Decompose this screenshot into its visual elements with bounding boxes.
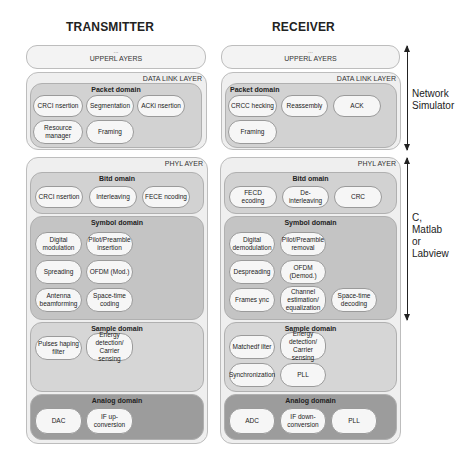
tx-block-ofdm-mod: OFDM (Mod.) (86, 260, 133, 284)
tx-block-ack-insertion: ACKi nsertion (137, 95, 185, 117)
rx-block-ofdm-demod: OFDM (Demod.) (280, 260, 326, 284)
rx-upper-layers-label: UPPERL AYERS (222, 54, 399, 63)
rx-block-channel-estimation: Channel estimation/ equalization (280, 286, 326, 314)
rx-upper-layers: ... UPPERL AYERS (221, 45, 400, 69)
tx-analog-domain: Analog domain DAC IF up-conversion (30, 394, 204, 440)
network-simulator-line-1: Network (412, 88, 454, 100)
rx-block-space-time-decoding: Space-time decoding (331, 288, 377, 312)
tx-block-digital-modulation: Digital modulation (35, 232, 82, 256)
tx-block-interleaving: Interleaving (89, 186, 137, 208)
network-simulator-range-arrow (407, 46, 408, 150)
rx-block-adc: ADC (229, 408, 275, 434)
tx-phy-layer: PHYL AYER Bitd omain CRCI nsertion Inter… (26, 157, 208, 444)
rx-block-pll-analog: PLL (331, 408, 377, 434)
arrow-up-icon (404, 45, 410, 52)
rx-analog-domain-title: Analog domain (225, 397, 396, 404)
rx-block-ack: ACK (333, 95, 381, 117)
rx-block-pll-sample: PLL (280, 363, 326, 387)
rx-packet-domain: Packet domain CRCC hecking Reassembly AC… (225, 83, 397, 148)
rx-phy-layer: PHYL AYER Bitd omain FECD ecoding De-int… (220, 157, 401, 444)
rx-block-framing: Framing (228, 120, 277, 144)
rx-bit-domain-title: Bitd omain (225, 175, 396, 182)
tx-packet-domain: Packet domain CRCI nsertion Segmentation… (30, 83, 202, 148)
tx-block-space-time-coding: Space-time coding (86, 288, 133, 312)
tx-data-link-layer: DATA LINK LAYER Packet domain CRCI nsert… (26, 72, 207, 150)
arrow-up-icon (404, 157, 410, 164)
tx-block-antenna-beamforming: Antenna beamforming (35, 288, 82, 312)
rx-block-energy-detection: Energy detection/ Carrier sensing (280, 332, 326, 360)
tx-block-spreading: Spreading (35, 260, 82, 284)
tx-packet-domain-title: Packet domain (31, 86, 201, 93)
tx-block-crc-insertion: CRCI nsertion (33, 95, 83, 117)
c-matlab-labview-line-2: Matlab (412, 224, 449, 236)
tx-block-pilot-insertion: Pilot/Preamble insertion (86, 232, 133, 256)
tx-block-if-upconversion: IF up-conversion (86, 408, 133, 434)
rx-symbol-domain: Symbol domain Digital demodulation Pilot… (224, 216, 397, 320)
arrow-down-icon (404, 144, 410, 151)
tx-analog-domain-title: Analog domain (31, 397, 203, 404)
rx-block-deinterleaving: De-interleaving (282, 186, 329, 208)
tx-bit-domain-title: Bitd omain (31, 175, 203, 182)
tx-block-pulse-shaping-filter: Pulses haping filter (35, 336, 82, 360)
rx-packet-domain-title: Packet domain (230, 86, 396, 93)
transmitter-title: TRANSMITTER (66, 20, 154, 34)
arrow-down-icon (404, 314, 410, 321)
rx-phy-layer-label: PHYL AYER (358, 160, 396, 167)
c-matlab-labview-line-4: Labview (412, 248, 449, 260)
tx-symbol-domain: Symbol domain Digital modulation Pilot/P… (30, 216, 204, 320)
tx-block-dac: DAC (35, 408, 82, 434)
c-matlab-labview-label: C, Matlab or Labview (412, 212, 449, 260)
rx-data-link-layer-label: DATA LINK LAYER (337, 75, 396, 82)
rx-block-synchronization: Synchronization (229, 363, 275, 387)
tx-block-resource-manager: Resource manager (33, 120, 83, 144)
rx-block-fec-decoding: FECD ecoding (229, 186, 277, 208)
tx-phy-layer-label: PHYL AYER (165, 160, 203, 167)
c-matlab-labview-range-arrow (407, 158, 408, 320)
network-simulator-label: Network Simulator (412, 88, 454, 112)
rx-block-if-downconversion: IF down-conversion (280, 408, 326, 434)
rx-block-digital-demodulation: Digital demodulation (229, 232, 275, 256)
rx-block-pilot-removal: Pilot/Preamble removal (280, 232, 326, 256)
rx-symbol-domain-title: Symbol domain (225, 219, 396, 226)
tx-upper-layers: ... UPPERL AYERS (26, 45, 206, 69)
tx-data-link-layer-label: DATA LINK LAYER (143, 75, 202, 82)
receiver-title: RECEIVER (272, 20, 335, 34)
rx-block-crc-checking: CRCC hecking (228, 95, 277, 117)
tx-block-energy-detection: Energy detection/ Carrier sensing (86, 333, 133, 361)
rx-block-frame-sync: Frames ync (229, 288, 275, 312)
tx-upper-layers-label: UPPERL AYERS (27, 54, 205, 63)
tx-block-crc-insertion-phy: CRCI nsertion (35, 186, 83, 208)
rx-block-despreading: Despreading (229, 260, 275, 284)
tx-symbol-domain-title: Symbol domain (31, 219, 203, 226)
rx-data-link-layer: DATA LINK LAYER Packet domain CRCC hecki… (221, 72, 401, 150)
rx-block-reassembly: Reassembly (281, 95, 328, 117)
tx-block-fec-encoding: FECE ncoding (142, 186, 190, 208)
c-matlab-labview-line-3: or (412, 236, 449, 248)
rx-block-matched-filter: Matchedf ilter (229, 335, 275, 359)
rx-sample-domain: Sample domain Matchedf ilter Energy dete… (224, 322, 397, 392)
c-matlab-labview-line-1: C, (412, 212, 449, 224)
tx-bit-domain: Bitd omain CRCI nsertion Interleaving FE… (30, 172, 204, 214)
tx-block-segmentation: Segmentation (86, 95, 134, 117)
rx-bit-domain: Bitd omain FECD ecoding De-interleaving … (224, 172, 397, 214)
rx-analog-domain: Analog domain ADC IF down-conversion PLL (224, 394, 397, 440)
tx-sample-domain: Sample domain Pulses haping filter Energ… (30, 322, 204, 392)
rx-block-crc: CRC (334, 186, 382, 208)
network-simulator-line-2: Simulator (412, 100, 454, 112)
tx-block-framing: Framing (86, 120, 134, 144)
